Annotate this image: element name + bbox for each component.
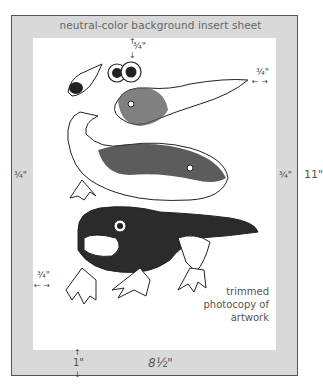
tadpole-illustration (114, 80, 248, 127)
froglet-illustration (66, 207, 258, 304)
tadpole-eyes-illustration (108, 62, 141, 82)
frog-egg-illustration (68, 64, 102, 96)
tadpole-with-legs-illustration (68, 112, 228, 200)
